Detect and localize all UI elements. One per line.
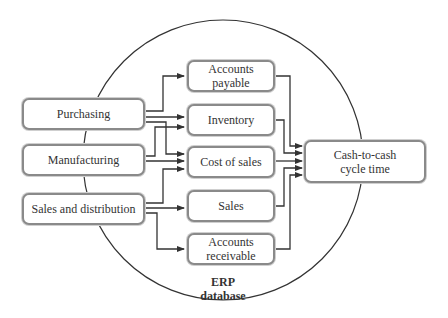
erp-label-line1: ERP xyxy=(180,275,266,289)
erp-diagram: Purchasing Manufacturing Sales and distr… xyxy=(0,0,448,318)
sales-box: Sales xyxy=(187,190,275,222)
sales-distribution-label: Sales and distribution xyxy=(32,202,136,216)
accounts-payable-line1: Accounts xyxy=(208,62,253,76)
purchasing-label: Purchasing xyxy=(57,107,110,121)
sales-distribution-box: Sales and distribution xyxy=(22,193,145,225)
sales-label: Sales xyxy=(218,199,243,213)
manufacturing-label: Manufacturing xyxy=(48,153,119,167)
manufacturing-box: Manufacturing xyxy=(22,144,145,176)
cost-of-sales-label: Cost of sales xyxy=(200,155,261,169)
accounts-receivable-line1: Accounts xyxy=(208,235,253,249)
cash-to-cash-box: Cash-to-cash cycle time xyxy=(304,140,426,183)
accounts-receivable-line2: receivable xyxy=(206,249,255,263)
inventory-label: Inventory xyxy=(208,113,255,127)
cost-of-sales-box: Cost of sales xyxy=(187,146,275,178)
cash-to-cash-line2: cycle time xyxy=(340,162,390,176)
accounts-payable-box: Accounts payable xyxy=(187,60,275,92)
erp-database-label: ERP database xyxy=(180,275,266,303)
accounts-receivable-box: Accounts receivable xyxy=(187,233,275,265)
cash-to-cash-line1: Cash-to-cash xyxy=(334,148,397,162)
erp-label-line2: database xyxy=(180,289,266,303)
accounts-payable-line2: payable xyxy=(212,76,249,90)
inventory-box: Inventory xyxy=(187,104,275,136)
purchasing-box: Purchasing xyxy=(22,98,145,130)
